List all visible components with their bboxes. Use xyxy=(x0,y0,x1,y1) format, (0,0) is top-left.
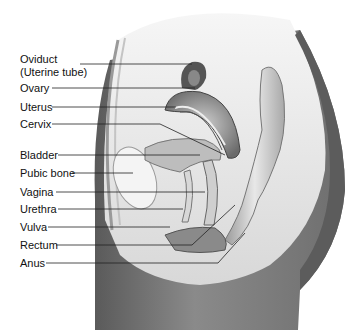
label-urethra: Urethra xyxy=(20,203,57,215)
label-rectum: Rectum xyxy=(20,239,58,251)
label-vulva: Vulva xyxy=(20,221,47,233)
anatomy-figure: Oviduct (Uterine tube) Ovary Uterus Cerv… xyxy=(0,0,363,331)
label-bladder: Bladder xyxy=(20,149,58,161)
label-cervix: Cervix xyxy=(20,118,51,130)
label-oviduct: Oviduct xyxy=(20,53,57,65)
label-ovary: Ovary xyxy=(20,82,49,94)
anatomy-illustration xyxy=(0,0,363,331)
label-uterus: Uterus xyxy=(20,101,52,113)
label-vagina: Vagina xyxy=(20,186,53,198)
label-oviduct-sub: (Uterine tube) xyxy=(20,66,87,78)
label-pubic-bone: Pubic bone xyxy=(20,167,75,179)
label-anus: Anus xyxy=(20,257,45,269)
